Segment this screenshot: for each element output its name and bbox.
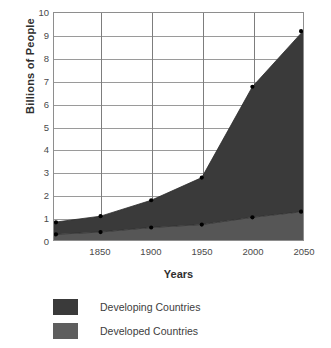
data-point-total <box>98 214 102 218</box>
data-point-developed <box>250 215 254 219</box>
data-point-developed <box>149 225 153 229</box>
legend-swatch <box>53 323 78 339</box>
series-areas <box>54 13 303 240</box>
y-tick-label: 9 <box>27 29 49 40</box>
y-tick-label: 2 <box>27 190 49 201</box>
legend-label: Developed Countries <box>100 325 198 337</box>
x-tick-label: 1900 <box>131 246 171 257</box>
data-point-developed <box>98 230 102 234</box>
data-point-total <box>250 85 254 89</box>
y-tick-label: 1 <box>27 213 49 224</box>
y-tick-label: 5 <box>27 121 49 132</box>
chart-legend: Developing CountriesDeveloped Countries <box>53 296 313 344</box>
population-area-chart: Billions of People 012345678910 18501900… <box>0 0 331 348</box>
y-tick-label: 10 <box>27 7 49 18</box>
data-point-total <box>54 220 58 224</box>
x-tick-label: 1850 <box>80 246 120 257</box>
data-point-total <box>299 29 303 33</box>
y-tick-label: 8 <box>27 52 49 63</box>
plot-area <box>53 12 304 241</box>
data-point-developed <box>200 222 204 226</box>
x-tick-label: 2000 <box>233 246 273 257</box>
y-tick-label: 0 <box>27 236 49 247</box>
y-tick-label: 6 <box>27 98 49 109</box>
cropped-title <box>0 0 331 3</box>
legend-item: Developing Countries <box>53 296 313 317</box>
data-point-developed <box>299 210 303 214</box>
legend-label: Developing Countries <box>100 301 200 313</box>
data-point-total <box>149 198 153 202</box>
area-developing-countries <box>54 31 303 234</box>
x-tick-label: 2050 <box>284 246 324 257</box>
x-tick-label: 1950 <box>182 246 222 257</box>
data-point-total <box>200 175 204 179</box>
y-tick-label: 4 <box>27 144 49 155</box>
legend-item: Developed Countries <box>53 320 313 341</box>
y-tick-label: 7 <box>27 75 49 86</box>
y-tick-label: 3 <box>27 167 49 178</box>
x-axis-title: Years <box>53 268 304 280</box>
legend-swatch <box>53 299 78 315</box>
data-point-developed <box>54 232 58 236</box>
